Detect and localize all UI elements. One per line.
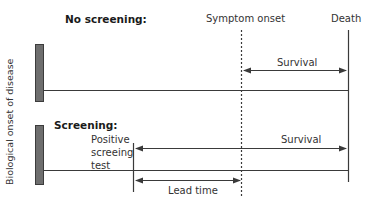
- onset-bar-screening: [36, 126, 44, 185]
- onset-bar-no-screening: [36, 45, 44, 102]
- no-screening-heading: No screening:: [65, 14, 147, 25]
- y-axis-label: Biological onset of disease: [4, 59, 15, 185]
- symptom-onset-label: Symptom onset: [206, 13, 285, 24]
- lead-time-diagram: [0, 0, 372, 203]
- test-label-line-3: test: [91, 160, 110, 171]
- screening-heading: Screening:: [54, 120, 117, 131]
- death-label: Death: [331, 13, 361, 24]
- lead-time-label: Lead time: [168, 185, 218, 196]
- test-label-line-2: screeing: [91, 147, 133, 158]
- survival-label-no-screening: Survival: [277, 57, 317, 68]
- test-label-line-1: Positive: [91, 134, 130, 145]
- survival-label-screening: Survival: [281, 134, 321, 145]
